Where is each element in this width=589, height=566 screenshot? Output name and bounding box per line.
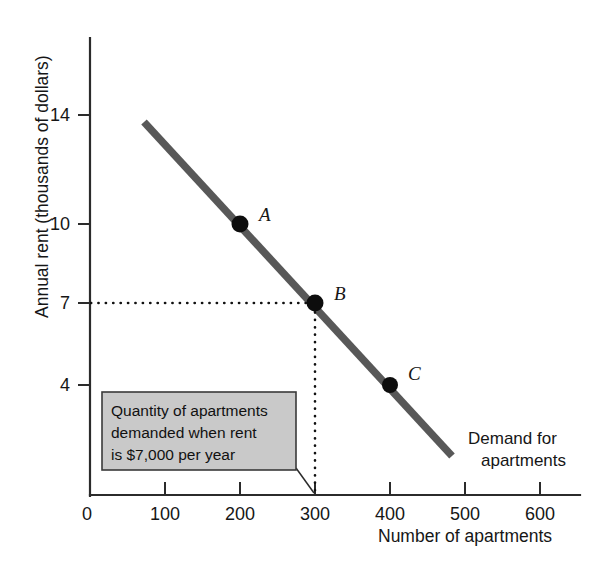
point-label-a: A (259, 205, 271, 224)
x-tick-label-200: 200 (225, 505, 255, 523)
chart-canvas (0, 0, 589, 566)
callout-text-line2: demanded when rent (111, 423, 257, 444)
callout-text-line1: Quantity of apartments (111, 401, 268, 422)
demand-curve-label-line1: Demand for (468, 428, 557, 449)
y-tick-label-4: 4 (40, 376, 70, 394)
y-tick-label-10: 10 (40, 215, 70, 233)
demand-curve-figure: Annual rent (thousands of dollars) Numbe… (0, 0, 589, 566)
point-label-c: C (408, 364, 421, 383)
y-axis-title: Annual rent (thousands of dollars) (34, 55, 52, 318)
demand-curve-label-line2: apartments (481, 450, 566, 471)
data-point-a[interactable] (232, 216, 249, 233)
data-point-b[interactable] (307, 295, 324, 312)
x-tick-label-500: 500 (450, 505, 480, 523)
x-tick-label-300: 300 (300, 505, 330, 523)
y-tick-label-7: 7 (40, 294, 70, 312)
x-axis-title: Number of apartments (378, 528, 552, 546)
data-point-c[interactable] (382, 377, 398, 393)
y-tick-label-14: 14 (40, 106, 70, 124)
x-tick-label-600: 600 (525, 505, 555, 523)
callout-text-line3: is $7,000 per year (111, 445, 235, 466)
point-label-b: B (334, 284, 346, 303)
x-tick-label-400: 400 (375, 505, 405, 523)
x-tick-label-0: 0 (82, 505, 92, 523)
callout-leader-line (296, 468, 314, 493)
x-tick-label-100: 100 (150, 505, 180, 523)
